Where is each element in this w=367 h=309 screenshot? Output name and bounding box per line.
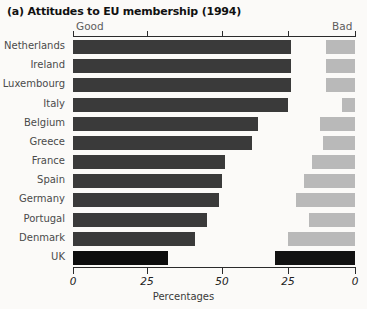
x-axis-tick-label: 0 [70, 275, 77, 287]
bar-good [73, 174, 222, 188]
x-axis-tick-label: 25 [140, 275, 153, 287]
category-label: Spain [37, 174, 65, 185]
category-label: Germany [19, 193, 65, 204]
x-axis-tick [355, 268, 356, 274]
category-label: Greece [29, 136, 65, 147]
x-axis-tick-label: 50 [215, 275, 228, 287]
category-label: Ireland [30, 59, 65, 70]
chart-row: Belgium [0, 115, 367, 134]
x-axis-tick-top [73, 31, 74, 36]
x-axis-label: Percentages [0, 291, 367, 302]
bar-good [73, 98, 288, 112]
bar-bad [304, 174, 355, 188]
category-label: Italy [43, 98, 65, 109]
x-axis-tick [288, 268, 289, 274]
category-label: Portugal [24, 213, 65, 224]
x-axis-tick-top [288, 31, 289, 36]
category-label: Belgium [24, 117, 65, 128]
chart-row: Netherlands [0, 38, 367, 57]
axis-line-top [73, 36, 356, 37]
chart-row: Spain [0, 172, 367, 191]
chart-row: Ireland [0, 57, 367, 76]
category-label: Luxembourg [3, 78, 65, 89]
bar-good [73, 193, 219, 207]
x-axis-tick-label: 25 [281, 275, 294, 287]
bar-good [73, 117, 258, 131]
x-axis-tick-label: 0 [352, 275, 359, 287]
category-label: UK [51, 251, 65, 262]
bar-bad [326, 59, 355, 73]
category-label: France [32, 155, 65, 166]
bar-bad [309, 213, 355, 227]
x-axis-tick-top [355, 31, 356, 36]
bar-good [73, 232, 195, 246]
bar-bad [326, 40, 355, 54]
bar-good [73, 59, 291, 73]
bar-good [73, 136, 252, 150]
bar-bad [275, 251, 355, 265]
x-axis-tick [222, 268, 223, 274]
chart-row: Denmark [0, 230, 367, 249]
page-title: (a) Attitudes to EU membership (1994) [7, 5, 241, 18]
bar-bad [342, 98, 355, 112]
bar-bad [320, 117, 355, 131]
bar-good [73, 78, 291, 92]
good-axis-caption: Good [76, 20, 104, 32]
chart-row: Germany [0, 191, 367, 210]
chart-row: Greece [0, 134, 367, 153]
bar-bad [296, 193, 355, 207]
bar-bad [312, 155, 355, 169]
category-label: Denmark [19, 232, 65, 243]
category-label: Netherlands [4, 40, 65, 51]
chart-row: Portugal [0, 211, 367, 230]
bar-good [73, 251, 168, 265]
chart-row: Luxembourg [0, 76, 367, 95]
bar-good [73, 40, 291, 54]
figure-panel: (a) Attitudes to EU membership (1994) Go… [0, 0, 367, 309]
x-axis-tick-top [147, 31, 148, 36]
bar-bad [288, 232, 355, 246]
chart-row: UK [0, 249, 367, 268]
x-axis-tick [73, 268, 74, 274]
bar-good [73, 213, 207, 227]
x-axis-tick-top [222, 31, 223, 36]
bar-bad [326, 78, 355, 92]
chart-row: France [0, 153, 367, 172]
bad-axis-caption: Bad [332, 20, 352, 32]
bar-bad [323, 136, 355, 150]
x-axis-tick [147, 268, 148, 274]
chart-row: Italy [0, 96, 367, 115]
bar-good [73, 155, 225, 169]
